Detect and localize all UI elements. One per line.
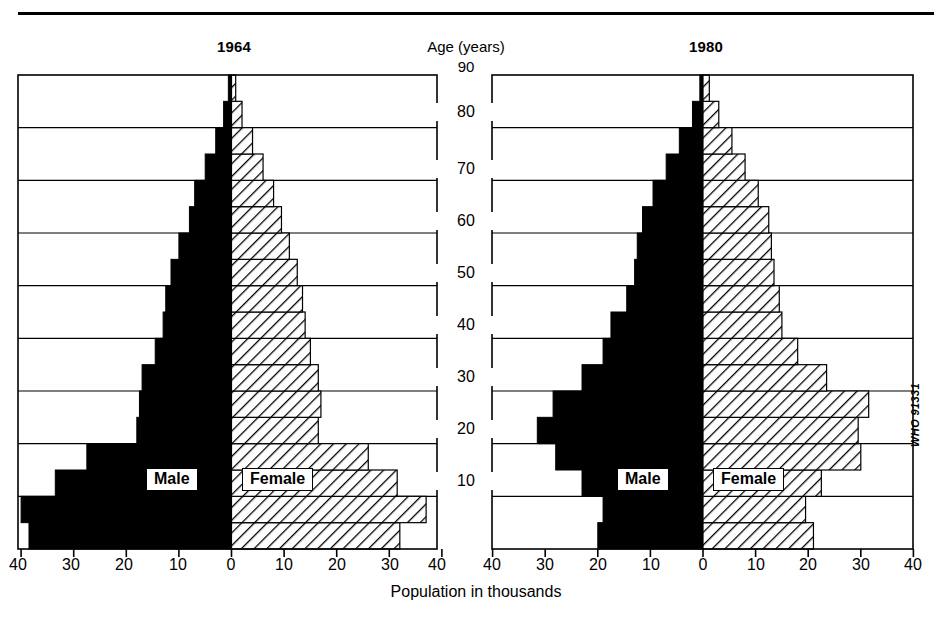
bar-female-60-64 — [703, 207, 769, 233]
bar-female-55-59 — [232, 233, 290, 259]
bar-male-35-39 — [155, 338, 231, 364]
bar-female-80-84 — [703, 101, 719, 127]
bar-female-40-44 — [232, 312, 306, 338]
bar-male-50-54 — [635, 259, 703, 285]
bar-female-50-54 — [703, 259, 774, 285]
bar-male-5-9 — [21, 496, 231, 522]
x-tick-label: 30 — [844, 556, 878, 574]
bar-male-50-54 — [171, 259, 231, 285]
bar-female-0-4 — [703, 523, 813, 549]
bar-male-25-29 — [139, 391, 231, 417]
bar-female-45-49 — [232, 286, 303, 312]
bar-female-15-19 — [703, 444, 861, 470]
age-tick-label: 40 — [406, 316, 526, 334]
age-tick-label: 30 — [406, 368, 526, 386]
x-axis-title: Population in thousands — [336, 583, 616, 601]
x-tick-label: 20 — [107, 556, 141, 574]
bar-female-25-29 — [703, 391, 869, 417]
bar-male-80-84 — [692, 101, 703, 127]
x-tick-label: 0 — [686, 556, 720, 574]
bars-panel-1964 — [21, 75, 426, 549]
bar-male-10-14 — [55, 470, 231, 496]
bar-male-75-79 — [679, 128, 703, 154]
bar-female-25-29 — [232, 391, 321, 417]
bar-female-55-59 — [703, 233, 771, 259]
pyramid-plot-area — [0, 0, 952, 621]
legend-female-1980: Female — [713, 468, 784, 491]
x-tick-label: 30 — [54, 556, 88, 574]
bar-male-60-64 — [643, 207, 703, 233]
population-pyramid-figure: 1964 Age (years) 1980 90 807060504030201… — [0, 0, 952, 621]
bar-female-20-24 — [232, 417, 319, 443]
bar-female-40-44 — [703, 312, 782, 338]
x-tick-label: 0 — [214, 556, 248, 574]
age-tick-label: 80 — [406, 103, 526, 121]
bar-female-20-24 — [703, 417, 858, 443]
legend-male-1964: Male — [146, 468, 198, 491]
bar-female-0-4 — [232, 523, 400, 549]
bar-female-45-49 — [703, 286, 779, 312]
bar-male-65-69 — [195, 180, 232, 206]
bar-male-15-19 — [556, 444, 703, 470]
bar-male-5-9 — [603, 496, 703, 522]
bar-female-65-69 — [703, 180, 758, 206]
bar-female-60-64 — [232, 207, 282, 233]
bar-male-45-49 — [627, 286, 703, 312]
bar-female-75-79 — [703, 128, 732, 154]
bar-female-65-69 — [232, 180, 274, 206]
x-tick-label: 30 — [528, 556, 562, 574]
bar-female-30-34 — [232, 365, 319, 391]
x-tick-label: 40 — [896, 556, 930, 574]
age-tick-label: 60 — [406, 212, 526, 230]
bar-female-85+ — [232, 75, 236, 101]
bar-female-85+ — [703, 75, 709, 101]
x-tick-marks-group — [21, 549, 913, 557]
bar-male-60-64 — [189, 207, 231, 233]
bar-female-75-79 — [232, 128, 253, 154]
bar-female-30-34 — [703, 365, 827, 391]
legend-male-1980: Male — [617, 468, 669, 491]
bar-male-15-19 — [87, 444, 232, 470]
age-tick-label: 10 — [406, 472, 526, 490]
x-tick-label: 40 — [420, 556, 454, 574]
bar-female-35-39 — [703, 338, 798, 364]
bar-male-25-29 — [553, 391, 703, 417]
bar-male-0-4 — [29, 523, 232, 549]
bar-male-35-39 — [603, 338, 703, 364]
x-tick-label: 40 — [475, 556, 509, 574]
bar-male-40-44 — [163, 312, 231, 338]
age-tick-label: 20 — [406, 420, 526, 438]
x-tick-label: 10 — [267, 556, 301, 574]
bar-male-55-59 — [637, 233, 703, 259]
bar-male-0-4 — [598, 523, 703, 549]
bar-female-5-9 — [232, 496, 427, 522]
bar-female-35-39 — [232, 338, 311, 364]
x-tick-label: 30 — [373, 556, 407, 574]
bar-male-20-24 — [137, 417, 232, 443]
bar-male-45-49 — [166, 286, 232, 312]
legend-female-1964: Female — [242, 468, 313, 491]
bar-male-75-79 — [216, 128, 232, 154]
who-credit: WHO 91331 — [909, 383, 921, 447]
bar-male-80-84 — [224, 101, 232, 127]
bar-male-30-34 — [142, 365, 231, 391]
bar-female-50-54 — [232, 259, 298, 285]
x-tick-label: 20 — [320, 556, 354, 574]
age-tick-label: 50 — [406, 264, 526, 282]
x-tick-label: 10 — [634, 556, 668, 574]
bar-male-70-74 — [666, 154, 703, 180]
x-tick-label: 10 — [739, 556, 773, 574]
bar-male-65-69 — [653, 180, 703, 206]
x-tick-label: 20 — [791, 556, 825, 574]
x-tick-label: 40 — [1, 556, 35, 574]
age-tick-label: 70 — [406, 160, 526, 178]
bars-panel-1980 — [537, 75, 868, 549]
bar-female-70-74 — [703, 154, 745, 180]
bar-female-80-84 — [232, 101, 243, 127]
bar-female-70-74 — [232, 154, 264, 180]
bar-male-30-34 — [582, 365, 703, 391]
bar-male-40-44 — [611, 312, 703, 338]
x-tick-label: 20 — [581, 556, 615, 574]
bar-female-5-9 — [703, 496, 806, 522]
x-tick-label: 10 — [161, 556, 195, 574]
